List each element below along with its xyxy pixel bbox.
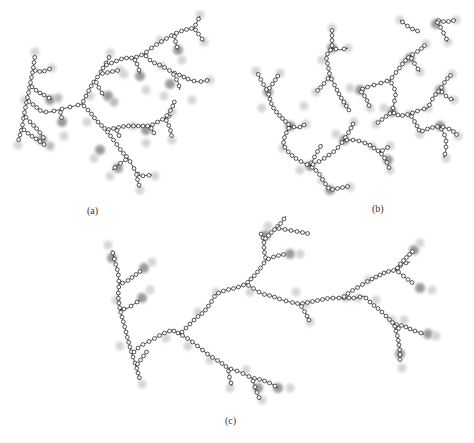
phenyl-ring [122,125,126,129]
phenyl-ring [172,73,176,77]
phenyl-ring [153,61,157,65]
phenyl-ring [330,34,334,38]
phenyl-ring [169,129,173,133]
phenyl-ring [410,57,414,61]
phenyl-ring [370,277,374,281]
phenyl-ring [26,96,30,100]
phenyl-ring [294,157,298,161]
phenyl-ring [107,56,111,60]
phenyl-ring [155,43,159,47]
phenyl-ring [117,134,121,138]
phenyl-ring [278,114,282,118]
phenyl-ring [404,59,408,63]
phenyl-ring [117,301,121,305]
node-blob [104,241,113,250]
node-blob [415,283,425,293]
phenyl-ring [416,29,420,33]
phenyl-ring [330,39,334,43]
node-blob [46,142,55,151]
phenyl-ring [397,270,401,274]
phenyl-ring [257,290,261,294]
phenyl-ring [116,273,120,277]
chain-bond [310,140,344,166]
phenyl-ring [110,61,114,65]
phenyl-ring [287,126,291,130]
phenyl-ring [59,111,63,115]
phenyl-ring [440,90,444,94]
phenyl-ring [122,307,126,311]
panel-c-label: (c) [225,415,236,426]
phenyl-ring [256,73,260,77]
phenyl-ring [379,81,383,85]
phenyl-ring [318,173,322,177]
phenyl-ring [38,91,42,95]
phenyl-ring [160,40,164,44]
phenyl-ring [186,337,190,341]
phenyl-ring [386,146,390,150]
phenyl-ring [306,232,310,236]
phenyl-ring [112,257,116,261]
phenyl-ring [324,182,328,186]
phenyl-ring [390,76,394,80]
phenyl-ring [321,178,325,182]
node-blob [146,286,155,295]
phenyl-ring [126,279,130,283]
phenyl-ring [311,300,315,304]
phenyl-ring [145,350,149,354]
phenyl-ring [322,156,326,160]
phenyl-ring [411,53,415,57]
node-blob [90,154,99,163]
phenyl-ring [115,59,119,63]
phenyl-ring [136,346,140,350]
phenyl-ring [452,130,456,134]
phenyl-ring [444,145,448,149]
node-blob [95,145,105,155]
phenyl-ring [158,63,162,67]
phenyl-ring [135,173,139,177]
phenyl-ring [118,148,122,152]
phenyl-ring [295,230,299,234]
phenyl-ring [339,96,343,100]
phenyl-ring [380,118,384,122]
phenyl-ring [128,160,132,164]
phenyl-ring [156,120,160,124]
phenyl-ring [113,166,117,170]
phenyl-ring [381,149,385,153]
phenyl-ring [32,124,36,128]
phenyl-ring [172,329,176,333]
phenyl-ring [372,146,376,150]
phenyl-ring [357,139,361,143]
panel-a-branched-structure [14,11,215,195]
phenyl-ring [60,116,64,120]
phenyl-ring [168,109,172,113]
phenyl-ring [342,47,346,51]
phenyl-ring [404,325,408,329]
phenyl-ring [398,66,402,70]
phenyl-ring [396,266,400,270]
phenyl-ring [247,375,251,379]
phenyl-ring [326,52,330,56]
panel-a-label: (a) [87,205,98,216]
phenyl-ring [109,134,113,138]
phenyl-ring [140,53,144,57]
phenyl-ring [446,77,450,81]
phenyl-ring [194,23,198,27]
phenyl-ring [141,174,145,178]
node-blob [380,104,389,113]
phenyl-ring [125,56,129,60]
phenyl-ring [232,287,236,291]
phenyl-ring [141,343,145,347]
phenyl-ring [416,67,420,71]
phenyl-ring [176,331,180,335]
phenyl-ring [298,125,302,129]
phenyl-ring [42,93,46,97]
phenyl-ring [314,169,318,173]
phenyl-ring [345,138,349,142]
phenyl-ring [416,109,420,113]
phenyl-ring [268,381,272,385]
node-blob [346,84,355,93]
phenyl-ring [423,44,427,48]
node-blob [138,380,147,389]
phenyl-ring [267,257,271,261]
phenyl-ring [115,129,119,133]
